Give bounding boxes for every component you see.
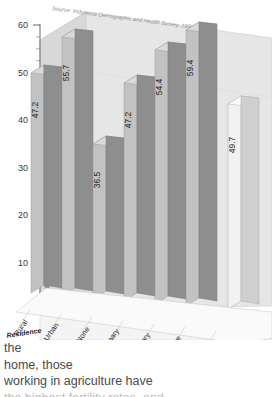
bar-completed-primary[interactable]: 54.4: [154, 42, 186, 304]
bar-some-primary-face: [137, 75, 155, 296]
y-tick-label-40: 40: [18, 115, 28, 125]
bar-none-face: [106, 136, 124, 294]
y-tick-label-30: 30: [18, 163, 28, 173]
body-line-2: home, those: [4, 357, 194, 374]
bar-urban-value: 55.7: [61, 64, 71, 81]
bar-secondary-and-above[interactable]: 59.4: [185, 22, 217, 306]
bar-some-primary[interactable]: 47.2: [123, 75, 155, 301]
bar-total-side: [228, 96, 241, 309]
bar-rural-side: [31, 65, 44, 293]
bar-none-value: 36.5: [92, 171, 102, 188]
bar-rural-face: [44, 65, 62, 288]
bar-urban-face: [75, 29, 93, 291]
bar-none[interactable]: 36.5: [92, 136, 124, 299]
bar-completed-primary-face: [168, 42, 186, 299]
bar-total-face: [241, 96, 259, 304]
bar-urban[interactable]: 55.7: [61, 29, 93, 296]
group-label-residence: Residence: [6, 327, 42, 339]
bar-some-primary-value: 47.2: [123, 111, 133, 128]
bar-some-primary-side: [124, 75, 137, 301]
y-tick-label-10: 10: [18, 258, 28, 268]
chart-svg: Source: Indonesia Demographic and Health…: [0, 0, 272, 340]
bar-total[interactable]: 49.7: [227, 96, 259, 309]
body-line-4-clipped: the highest fertility rates, and those w…: [4, 390, 194, 397]
body-line-3: working in agriculture have: [4, 373, 194, 390]
body-paragraph: the home, those working in agriculture h…: [4, 340, 194, 397]
bar-none-side: [93, 136, 106, 299]
body-line-1: the: [4, 340, 194, 357]
bar-rural[interactable]: 47.2: [30, 65, 62, 295]
y-tick-label-20: 20: [18, 210, 28, 220]
y-tick-label-50: 50: [18, 68, 28, 78]
y-tick-label-60: 60: [18, 20, 28, 30]
bar-completed-primary-value: 54.4: [154, 78, 164, 95]
bar-total-value: 49.7: [227, 136, 237, 153]
y-axis-labels: 0 10 20 30 40 50 60: [18, 20, 28, 315]
bar-secondary-value: 59.4: [185, 59, 195, 76]
bar-chart-figure: Source: Indonesia Demographic and Health…: [0, 0, 272, 340]
bar-rural-value: 47.2: [30, 101, 40, 118]
bar-secondary-face: [199, 22, 217, 301]
